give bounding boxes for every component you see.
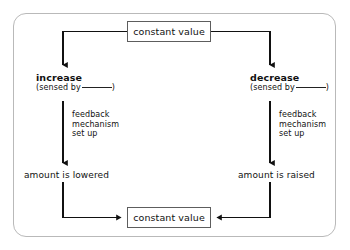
- label-amount-is-lowered: amount is lowered: [24, 170, 109, 180]
- decrease-sensed-by-prefix: (sensed by: [250, 83, 295, 92]
- decrease-sensed-by-suffix: ): [326, 83, 329, 92]
- label-decrease: decrease: [250, 72, 299, 83]
- feedback-left-line1: feedback: [72, 110, 119, 120]
- label-amount-is-raised: amount is raised: [238, 170, 315, 180]
- feedback-right-line1: feedback: [279, 110, 326, 120]
- feedback-left-line2: mechanism: [72, 120, 119, 130]
- node-constant-value-bottom: constant value: [127, 207, 211, 228]
- increase-sensed-by-prefix: (sensed by: [36, 83, 81, 92]
- label-feedback-mechanism-right: feedback mechanism set up: [279, 110, 326, 139]
- node-constant-value-top: constant value: [127, 21, 211, 42]
- label-feedback-mechanism-left: feedback mechanism set up: [72, 110, 119, 139]
- feedback-right-line2: mechanism: [279, 120, 326, 130]
- feedback-right-line3: set up: [279, 129, 326, 139]
- label-decrease-sensed-by: (sensed by): [250, 83, 329, 92]
- feedback-left-line3: set up: [72, 129, 119, 139]
- label-increase: increase: [36, 72, 82, 83]
- increase-sensed-by-suffix: ): [112, 83, 115, 92]
- decrease-blank-rule: [296, 87, 326, 88]
- increase-blank-rule: [82, 87, 112, 88]
- label-increase-sensed-by: (sensed by): [36, 83, 115, 92]
